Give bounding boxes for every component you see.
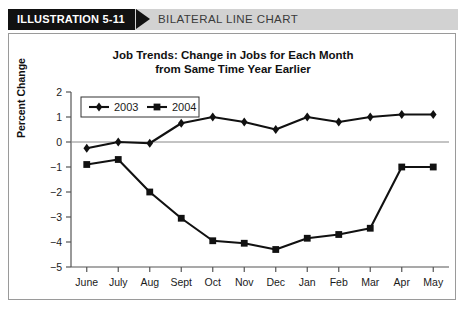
series-layer	[83, 110, 436, 253]
data-point-2003	[272, 125, 279, 134]
x-tick-label: June	[75, 276, 98, 288]
data-point-2003	[115, 137, 122, 146]
y-tick-label: −1	[50, 161, 62, 173]
x-tick-label: May	[423, 276, 444, 288]
data-point-2003	[430, 110, 437, 119]
y-tick-label: −5	[50, 261, 62, 273]
data-point-2004	[115, 156, 122, 163]
x-tick-label: Mar	[361, 276, 380, 288]
chart-legend: 20032004	[81, 97, 199, 117]
chart-frame: Job Trends: Change in Jobs for Each Mont…	[8, 33, 456, 300]
header-title: BILATERAL LINE CHART	[158, 9, 298, 30]
series-line-2003	[87, 115, 434, 149]
illustration-figure: ILLUSTRATION 5-11 BILATERAL LINE CHART J…	[0, 0, 466, 309]
data-point-2004	[241, 240, 248, 247]
x-tick-label: Sept	[170, 276, 192, 288]
data-point-2003	[304, 112, 311, 121]
x-tick-label: Feb	[330, 276, 348, 288]
data-point-2003	[178, 119, 185, 128]
data-point-2004	[304, 235, 311, 242]
y-tick-label: −2	[50, 186, 62, 198]
data-point-2003	[367, 112, 374, 121]
y-tick-label: 1	[56, 111, 62, 123]
data-point-2004	[272, 246, 279, 253]
data-point-2003	[209, 112, 216, 121]
y-tick-label: 0	[56, 136, 62, 148]
legend-label-2003: 2003	[114, 101, 138, 113]
data-point-2004	[178, 215, 185, 222]
x-tick-label: Jan	[299, 276, 316, 288]
legend-marker-2004	[154, 104, 161, 111]
data-point-2004	[398, 164, 405, 171]
x-tick-label: July	[109, 276, 128, 288]
data-point-2003	[146, 139, 153, 148]
data-point-2004	[430, 164, 437, 171]
legend-label-2004: 2004	[172, 101, 196, 113]
x-tick-label: Aug	[140, 276, 159, 288]
series-line-2004	[87, 160, 434, 250]
y-tick-label: 2	[56, 86, 62, 98]
y-tick-label: −4	[50, 236, 62, 248]
data-point-2004	[367, 225, 374, 232]
data-point-2004	[209, 237, 216, 244]
data-point-2004	[146, 189, 153, 196]
x-tick-label: Apr	[394, 276, 411, 288]
data-point-2003	[83, 144, 90, 153]
header-arrow-icon	[136, 9, 150, 29]
data-point-2003	[335, 117, 342, 126]
x-tick-label: Oct	[205, 276, 221, 288]
data-point-2003	[398, 110, 405, 119]
data-point-2003	[241, 117, 248, 126]
line-chart-plot: 210−1−2−3−4−5JuneJulyAugSeptOctNovDecJan…	[9, 34, 457, 301]
header-band: ILLUSTRATION 5-11 BILATERAL LINE CHART	[8, 9, 458, 30]
y-tick-label: −3	[50, 211, 62, 223]
data-point-2004	[335, 231, 342, 238]
x-tick-label: Nov	[235, 276, 254, 288]
x-tick-label: Dec	[266, 276, 285, 288]
illustration-tag: ILLUSTRATION 5-11	[8, 9, 135, 30]
data-point-2004	[83, 161, 90, 168]
